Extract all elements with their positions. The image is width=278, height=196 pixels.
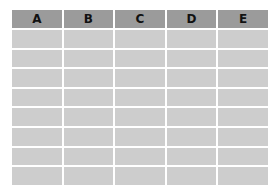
cell[interactable]	[218, 50, 268, 68]
cell[interactable]	[64, 89, 114, 107]
cell[interactable]	[115, 50, 165, 68]
cell[interactable]	[218, 30, 268, 48]
cell[interactable]	[64, 30, 114, 48]
cell[interactable]	[218, 69, 268, 87]
cell[interactable]	[12, 89, 62, 107]
cell[interactable]	[64, 69, 114, 87]
cell[interactable]	[64, 148, 114, 166]
cell[interactable]	[167, 148, 217, 166]
cell[interactable]	[12, 108, 62, 126]
cell[interactable]	[64, 108, 114, 126]
cell[interactable]	[115, 128, 165, 146]
cell[interactable]	[167, 50, 217, 68]
cell[interactable]	[115, 30, 165, 48]
cell[interactable]	[64, 128, 114, 146]
cell[interactable]	[12, 50, 62, 68]
column-header-d[interactable]: D	[167, 10, 217, 28]
cell[interactable]	[12, 128, 62, 146]
cell[interactable]	[12, 30, 62, 48]
cell[interactable]	[218, 148, 268, 166]
cell[interactable]	[64, 167, 114, 185]
cell[interactable]	[12, 167, 62, 185]
cell[interactable]	[115, 69, 165, 87]
column-header-b[interactable]: B	[64, 10, 114, 28]
cell[interactable]	[167, 108, 217, 126]
cell[interactable]	[64, 50, 114, 68]
cell[interactable]	[218, 167, 268, 185]
cell[interactable]	[218, 108, 268, 126]
cell[interactable]	[12, 69, 62, 87]
cell[interactable]	[167, 89, 217, 107]
cell[interactable]	[12, 148, 62, 166]
cell[interactable]	[218, 89, 268, 107]
cell[interactable]	[115, 89, 165, 107]
cell[interactable]	[115, 167, 165, 185]
column-header-c[interactable]: C	[115, 10, 165, 28]
cell[interactable]	[167, 128, 217, 146]
spreadsheet-grid: A B C D E	[12, 10, 268, 185]
cell[interactable]	[218, 128, 268, 146]
cell[interactable]	[115, 148, 165, 166]
column-header-a[interactable]: A	[12, 10, 62, 28]
cell[interactable]	[115, 108, 165, 126]
column-header-e[interactable]: E	[218, 10, 268, 28]
cell[interactable]	[167, 69, 217, 87]
cell[interactable]	[167, 167, 217, 185]
cell[interactable]	[167, 30, 217, 48]
